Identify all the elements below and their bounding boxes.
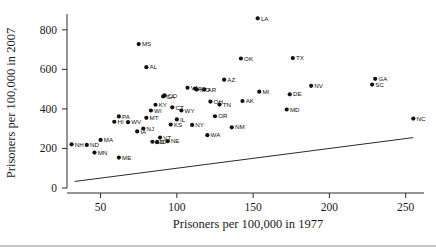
- data-point-marker: [208, 99, 212, 103]
- data-point-marker: [112, 120, 116, 124]
- data-point: TX: [291, 54, 304, 61]
- data-point-label: TN: [223, 101, 231, 108]
- data-point: ND: [85, 141, 100, 148]
- data-point: IA: [135, 128, 147, 135]
- data-point-label: MD: [290, 106, 300, 113]
- data-point-marker: [150, 140, 154, 144]
- data-point-marker: [161, 94, 165, 98]
- data-point: LA: [256, 15, 270, 22]
- data-point-label: SC: [375, 81, 384, 88]
- data-point-marker: [170, 105, 174, 109]
- data-point-label: ME: [122, 154, 131, 161]
- data-point-label: AL: [150, 63, 158, 70]
- data-point: SC: [370, 81, 384, 88]
- data-point: AL: [144, 63, 157, 70]
- data-point-marker: [230, 125, 234, 129]
- data-point: WI: [149, 107, 162, 114]
- data-point-marker: [217, 102, 221, 106]
- x-tick-label: 100: [168, 201, 186, 213]
- data-point-marker: [149, 108, 153, 112]
- data-point-group: LAMSOKTXALAZGASCNVMIARDEFLVAMOCOCAOHAKTN…: [69, 15, 426, 161]
- data-point-label: NJ: [146, 125, 154, 132]
- data-point-marker: [240, 99, 244, 103]
- data-point-marker: [144, 116, 148, 120]
- data-point-marker: [190, 123, 194, 127]
- data-point-label: DE: [293, 90, 302, 97]
- x-tick-label: 50: [95, 201, 107, 213]
- data-point-label: NC: [417, 115, 426, 122]
- y-tick-label: 800: [40, 24, 58, 36]
- data-point: HI: [112, 118, 124, 125]
- data-point-marker: [179, 108, 183, 112]
- y-tick-label: 400: [40, 103, 58, 115]
- data-point-marker: [411, 116, 415, 120]
- data-point-label: NM: [235, 123, 245, 130]
- y-axis-ticks: 0200400600800: [40, 24, 67, 194]
- data-point-marker: [370, 82, 374, 86]
- data-point: MD: [285, 106, 300, 113]
- data-point: SD: [150, 138, 164, 145]
- data-point-label: WY: [185, 107, 195, 114]
- data-point: OK: [239, 55, 254, 62]
- data-point: KS: [169, 121, 183, 128]
- y-tick-label: 200: [40, 142, 58, 154]
- data-point-marker: [169, 122, 173, 126]
- data-point: MS: [137, 40, 152, 47]
- data-point-marker: [98, 138, 102, 142]
- data-point-marker: [222, 78, 226, 82]
- data-point: NC: [411, 115, 426, 122]
- data-point-label: NH: [75, 141, 84, 148]
- data-point-label: MI: [262, 88, 269, 95]
- data-point: MN: [92, 149, 107, 156]
- y-tick-label: 600: [40, 63, 58, 75]
- y-tick-label: 0: [51, 182, 57, 194]
- data-point-label: CA: [166, 93, 175, 100]
- data-point: CA: [161, 93, 176, 100]
- scatter-plot-figure: Prisoners per 100,000 in 2007 Prisoners …: [0, 0, 436, 252]
- data-point: NH: [69, 141, 83, 148]
- data-point-label: WI: [154, 107, 162, 114]
- data-point-marker: [69, 142, 73, 146]
- data-point-label: OK: [244, 55, 254, 62]
- data-point: DE: [288, 90, 302, 97]
- data-point-label: LA: [261, 15, 269, 22]
- data-point: ME: [117, 154, 132, 161]
- data-point-marker: [288, 92, 292, 96]
- data-point-marker: [256, 16, 260, 20]
- data-point-marker: [309, 84, 313, 88]
- data-point: WA: [205, 131, 221, 138]
- data-point-label: OR: [218, 112, 228, 119]
- data-point-label: HI: [117, 118, 123, 125]
- data-point: MI: [257, 88, 269, 95]
- data-point-marker: [195, 87, 199, 91]
- data-point-marker: [185, 86, 189, 90]
- data-point: OR: [213, 112, 228, 119]
- data-point-marker: [285, 107, 289, 111]
- x-tick-label: 250: [397, 201, 415, 213]
- x-tick-label: 150: [245, 201, 263, 213]
- data-point-marker: [144, 65, 148, 69]
- data-point-label: MO: [200, 86, 210, 93]
- data-point-label: NE: [171, 137, 180, 144]
- x-tick-label: 200: [321, 201, 339, 213]
- data-point-marker: [239, 56, 243, 60]
- data-point-marker: [257, 90, 261, 94]
- data-point-label: MS: [142, 40, 151, 47]
- data-point-marker: [213, 114, 217, 118]
- data-point-label: IA: [140, 128, 147, 135]
- y-axis-title: Prisoners per 100,000 in 2007: [4, 28, 18, 178]
- data-point-label: WA: [211, 131, 222, 138]
- data-point-label: AZ: [227, 76, 235, 83]
- data-point-label: WV: [131, 118, 142, 125]
- data-point-marker: [85, 143, 89, 147]
- data-point-label: SD: [156, 138, 165, 145]
- prisoner-rate-scatter-chart: Prisoners per 100,000 in 2007 Prisoners …: [0, 0, 436, 252]
- data-point-label: TX: [296, 54, 304, 61]
- data-point-marker: [205, 133, 209, 137]
- data-point: AZ: [222, 76, 235, 83]
- data-point-marker: [291, 56, 295, 60]
- data-point-label: MA: [104, 136, 114, 143]
- data-point: MA: [98, 136, 113, 143]
- data-point-label: NY: [195, 121, 204, 128]
- data-point: NV: [309, 82, 324, 89]
